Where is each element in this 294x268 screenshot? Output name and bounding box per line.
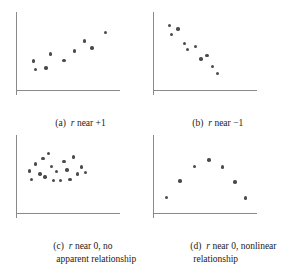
caption-text-c: near 0, no (73, 241, 113, 251)
data-point (68, 178, 71, 181)
data-point (32, 59, 35, 62)
data-point (41, 157, 44, 160)
data-point (193, 165, 196, 168)
data-point (84, 171, 87, 174)
data-point (72, 155, 75, 158)
panel-a: (a)r near +1 (0, 0, 137, 123)
data-point (221, 165, 224, 168)
data-point (38, 172, 41, 175)
data-point (59, 179, 62, 182)
data-point (83, 39, 86, 42)
data-point (30, 178, 33, 181)
data-point (62, 160, 65, 163)
y-axis (16, 12, 17, 95)
data-point (62, 59, 65, 62)
y-axis (153, 12, 154, 95)
data-point (90, 46, 93, 49)
x-axis (153, 90, 257, 91)
data-point (211, 65, 214, 68)
data-point (104, 31, 107, 34)
data-point (183, 42, 186, 45)
data-point (47, 152, 50, 155)
data-point (233, 180, 236, 183)
panel-caption-c: (c)r near 0, noapparent relationship (0, 215, 157, 268)
data-point (165, 196, 168, 199)
data-point (170, 33, 173, 36)
plot-area-d (153, 135, 257, 213)
caption-tag-c: (c) (53, 241, 64, 251)
data-point (199, 57, 202, 60)
y-axis (16, 135, 17, 218)
y-axis (153, 135, 154, 218)
data-point (244, 196, 247, 199)
data-point (52, 179, 55, 182)
data-point (186, 48, 189, 51)
data-point (168, 24, 171, 27)
panel-c: (c)r near 0, noapparent relationship (0, 123, 137, 246)
data-point (176, 27, 179, 30)
data-point (28, 169, 31, 172)
data-point (34, 162, 37, 165)
data-point (49, 52, 52, 55)
data-point (207, 158, 210, 161)
data-point (65, 168, 68, 171)
data-point (34, 68, 37, 71)
caption-tag-d: (d) (190, 241, 201, 251)
data-point (205, 54, 208, 57)
x-axis (16, 213, 120, 214)
panel-caption-d: (d)r near 0, nonlinearrelationship (137, 215, 294, 268)
data-point (73, 49, 76, 52)
data-point (194, 45, 197, 48)
x-axis (16, 90, 120, 91)
data-point (76, 172, 79, 175)
data-point (44, 66, 47, 69)
data-point (80, 165, 83, 168)
x-axis (153, 213, 257, 214)
data-point (216, 72, 219, 75)
plot-area-a (16, 12, 120, 90)
data-point (178, 179, 181, 182)
caption-text-d-line2: relationship (193, 253, 276, 266)
panel-b: (b)r near −1 (137, 0, 274, 123)
caption-text-c-line2: apparent relationship (56, 253, 136, 266)
caption-text-d: near 0, nonlinear (210, 241, 276, 251)
data-point (50, 165, 53, 168)
plot-area-c (16, 135, 120, 213)
data-point (55, 170, 58, 173)
data-point (43, 175, 46, 178)
panel-d: (d)r near 0, nonlinearrelationship (137, 123, 274, 246)
plot-area-b (153, 12, 257, 90)
